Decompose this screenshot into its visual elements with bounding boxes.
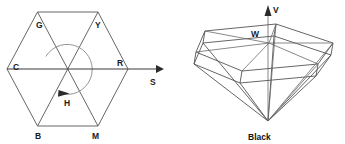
label-green: G	[36, 20, 43, 30]
label-magenta: M	[92, 131, 99, 141]
top-spoke-4	[269, 43, 318, 64]
top-spoke-5	[242, 43, 269, 71]
side-edge-5	[240, 83, 268, 121]
label-black-apex: Black	[248, 132, 271, 142]
figure-root: G Y C R B M S H	[0, 0, 345, 144]
side-edge-4	[268, 76, 316, 121]
label-red: R	[117, 58, 123, 68]
hexcone-side-edges	[194, 36, 331, 121]
hexcone-side-edges-upper	[268, 24, 333, 121]
label-blue: B	[35, 131, 41, 141]
side-edge-6	[194, 64, 268, 121]
saturation-axis-arrowhead	[156, 65, 164, 73]
label-value-axis: V	[273, 5, 279, 15]
side-edge-upper-2	[268, 24, 276, 121]
color-model-figure: G Y C R B M S H	[0, 0, 345, 144]
label-hue-arc: H	[64, 98, 70, 108]
hue-arc-arrowhead	[58, 90, 70, 97]
label-saturation-axis: S	[150, 77, 156, 87]
value-axis-arrowhead	[265, 5, 272, 16]
hexcone-top-spokes	[196, 24, 333, 71]
rim-connector-5	[240, 71, 242, 83]
side-edge-upper-4	[268, 64, 318, 121]
left-hexagon-diagram: G Y C R B M S H	[7, 12, 164, 141]
right-hexcone-diagram: V W Black	[194, 5, 333, 142]
label-yellow: Y	[95, 20, 101, 30]
label-cyan: C	[13, 62, 19, 72]
side-edge-3	[268, 55, 331, 121]
label-white-point: W	[251, 29, 260, 39]
